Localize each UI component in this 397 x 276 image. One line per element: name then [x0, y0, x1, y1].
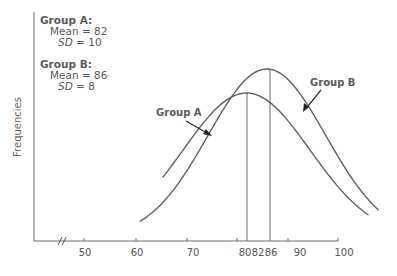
tick-label: 100: [334, 247, 353, 258]
tick-label: 80: [239, 247, 252, 258]
mean-value: 86: [94, 69, 107, 81]
equals-sign: =: [76, 80, 85, 92]
sd-label: SD: [58, 80, 73, 92]
y-axis-label: Frequencies: [12, 97, 23, 157]
x-tick-labels: 50 60 70 80 82 86 90 100: [79, 247, 354, 258]
arrow-icon: [186, 121, 212, 136]
tick-label: 86: [265, 247, 278, 258]
tick-label: 70: [187, 247, 200, 258]
equals-sign: =: [76, 36, 85, 48]
tick-label: 82: [252, 247, 265, 258]
tick-label: 50: [79, 247, 92, 258]
curve-group-b: [140, 69, 379, 221]
tick-label: 60: [131, 247, 144, 258]
annotation-group-a: Group A: [156, 107, 202, 118]
stats-sd-row: SD = 10: [40, 37, 107, 48]
tick-label: 90: [294, 247, 307, 258]
stats-group-b: Group B: Mean = 86 SD = 8: [40, 59, 107, 92]
stats-sd-row: SD = 8: [40, 81, 107, 92]
sd-value: 8: [88, 80, 95, 92]
sd-value: 10: [88, 36, 101, 48]
stats-group-a: Group A: Mean = 82 SD = 10: [40, 15, 107, 48]
sd-label: SD: [58, 36, 73, 48]
annotation-group-b: Group B: [310, 77, 355, 88]
